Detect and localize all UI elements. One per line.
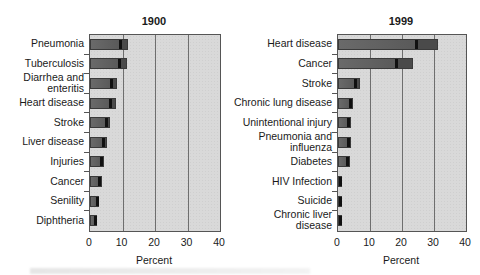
x-tick-label: 30: [423, 236, 443, 248]
category-label: Liver disease: [22, 136, 84, 147]
category-label: Suicide: [298, 195, 332, 206]
x-tick-label: 30: [177, 236, 197, 248]
y-tick: [84, 152, 89, 153]
category-label: Cancer: [298, 58, 332, 69]
bar-diabetes: [338, 156, 350, 167]
bar-heart-disease: [90, 98, 116, 109]
gridline: [155, 35, 156, 231]
chart-title: 1999: [337, 15, 465, 27]
bar-chronic-liver-disease: [338, 215, 342, 226]
category-label: Injuries: [50, 156, 84, 167]
plot-area: [89, 34, 221, 232]
bar-tuberculosis: [90, 58, 127, 69]
y-tick: [84, 54, 89, 55]
y-tick: [332, 210, 337, 211]
bar-liver-disease: [90, 137, 107, 148]
y-tick: [332, 171, 337, 172]
x-tick-label: 0: [327, 236, 347, 248]
y-tick: [84, 132, 89, 133]
bar-hiv-infection: [338, 176, 342, 187]
chart-1999: 1999Heart diseaseCancerStrokeChronic lun…: [240, 0, 480, 275]
bar-suicide: [338, 196, 342, 207]
x-tick-label: 40: [209, 236, 229, 248]
category-label: Unintentional injury: [243, 117, 332, 128]
chart-1900: 1900PneumoniaTuberculosisDiarrhea andent…: [0, 0, 240, 275]
gridline: [434, 35, 435, 231]
x-tick-label: 20: [391, 236, 411, 248]
category-label: Cancer: [50, 176, 84, 187]
category-label: Stroke: [302, 78, 332, 89]
y-tick: [332, 93, 337, 94]
y-tick: [84, 210, 89, 211]
bar-senility: [90, 196, 99, 207]
figure-caption-faint: [30, 268, 310, 274]
category-label: Chronic liverdisease: [274, 209, 332, 231]
y-tick: [332, 54, 337, 55]
x-axis-label: Percent: [361, 254, 441, 266]
gridline: [188, 35, 189, 231]
y-tick: [84, 191, 89, 192]
x-tick-label: 10: [112, 236, 132, 248]
x-tick-label: 10: [359, 236, 379, 248]
bar-stroke: [90, 117, 110, 128]
bar-heart-disease: [338, 39, 438, 50]
bar-diarrhea-and-enteritis: [90, 78, 117, 89]
bar-unintentional-injury: [338, 117, 351, 128]
category-label: Pneumonia: [31, 38, 84, 49]
y-tick: [84, 171, 89, 172]
category-label: Tuberculosis: [25, 58, 84, 69]
category-label: Diphtheria: [36, 215, 84, 226]
x-tick-label: 0: [79, 236, 99, 248]
bar-pneumonia: [90, 39, 128, 50]
y-tick: [84, 112, 89, 113]
y-tick: [84, 73, 89, 74]
bar-chronic-lung-disease: [338, 98, 353, 109]
category-label: Heart disease: [267, 38, 332, 49]
bar-cancer: [338, 58, 413, 69]
y-tick: [332, 132, 337, 133]
y-tick: [332, 152, 337, 153]
x-tick-label: 40: [455, 236, 475, 248]
category-label: Senility: [50, 195, 84, 206]
bar-injuries: [90, 156, 104, 167]
category-label: Chronic lung disease: [234, 97, 332, 108]
category-label: Stroke: [54, 117, 84, 128]
bar-cancer: [90, 176, 102, 187]
y-tick: [332, 191, 337, 192]
bar-pneumonia-and-influenza: [338, 137, 351, 148]
category-label: HIV Infection: [272, 176, 332, 187]
category-label: Diabetes: [291, 156, 332, 167]
category-label: Heart disease: [19, 97, 84, 108]
plot-area: [337, 34, 467, 232]
x-axis-label: Percent: [114, 254, 194, 266]
y-tick: [84, 93, 89, 94]
category-label: Diarrhea andenteritis: [23, 72, 84, 94]
x-tick-label: 20: [144, 236, 164, 248]
category-label: Pneumonia andinfluenza: [258, 131, 332, 153]
bar-diphtheria: [90, 215, 97, 226]
bar-stroke: [338, 78, 360, 89]
y-tick: [332, 112, 337, 113]
y-tick: [332, 73, 337, 74]
chart-title: 1900: [89, 15, 219, 27]
